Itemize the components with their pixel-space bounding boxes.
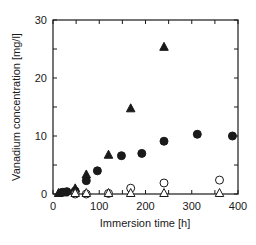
series-open-circle	[71, 176, 223, 198]
x-tick-labels: 0100200300400	[50, 200, 247, 212]
data-point-open-triangle	[160, 189, 169, 197]
x-axis-title: Immersion time [h]	[100, 217, 190, 229]
axis-ticks	[53, 20, 238, 194]
y-tick-label: 20	[35, 72, 47, 84]
data-point-filled-triangle	[82, 170, 91, 178]
data-point-filled-circle	[117, 152, 125, 160]
x-tick-label: 400	[229, 200, 247, 212]
x-tick-label: 200	[136, 200, 154, 212]
data-point-filled-triangle	[126, 104, 135, 112]
plot-frame	[53, 20, 238, 194]
data-point-filled-circle	[228, 132, 236, 140]
y-tick-label: 30	[35, 14, 47, 26]
series-open-triangle	[71, 189, 224, 197]
data-point-open-triangle	[215, 189, 224, 197]
scatter-chart: 0102030 0100200300400 Immersion time [h]…	[0, 0, 256, 245]
data-point-open-circle	[216, 176, 224, 184]
data-point-filled-circle	[160, 137, 168, 145]
plot-border	[53, 20, 238, 194]
data-points	[54, 42, 236, 198]
series-filled-circle	[58, 130, 236, 196]
data-point-filled-circle	[193, 130, 201, 138]
data-point-filled-circle	[93, 167, 101, 175]
data-point-open-circle	[160, 179, 168, 187]
data-point-filled-triangle	[160, 42, 169, 50]
x-tick-label: 0	[50, 200, 56, 212]
x-tick-label: 100	[90, 200, 108, 212]
series-filled-triangle	[54, 42, 168, 196]
y-tick-label: 10	[35, 130, 47, 142]
y-axis-title: Vanadium concentration [mg/l]	[10, 33, 22, 181]
y-tick-label: 0	[41, 188, 47, 200]
y-tick-labels: 0102030	[35, 14, 47, 200]
data-point-filled-circle	[138, 149, 146, 157]
x-tick-label: 300	[183, 200, 201, 212]
data-point-filled-triangle	[104, 150, 113, 158]
